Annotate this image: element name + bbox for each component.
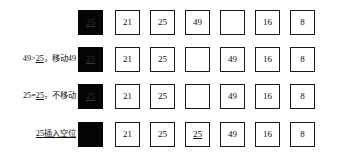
key-cell: 25: [78, 10, 103, 35]
label-segment: ，不移动: [44, 91, 76, 100]
step-label: 49>25，移动49: [0, 54, 78, 63]
array-cell: 49: [185, 10, 210, 35]
array-cell: 25: [185, 122, 210, 147]
cell-value: 25: [86, 18, 95, 27]
insertion-sort-diagram: 2521254916849>25，移动492521254916825=25，不移…: [0, 0, 342, 157]
cell-value: 16: [263, 92, 272, 101]
cell-value: 49: [228, 130, 237, 139]
cell-value: 25: [86, 92, 95, 101]
cell-value: 8: [300, 55, 305, 64]
label-segment: ，移动49: [44, 54, 76, 63]
step-row: 25=25，不移动25212549168: [0, 81, 342, 111]
step-label: 25=25，不移动: [0, 91, 78, 100]
key-cell: 25: [78, 47, 103, 72]
cell-value: 21: [123, 55, 132, 64]
cell-value: 49: [193, 18, 202, 27]
array-cell: 25: [150, 122, 175, 147]
array-cell: 21: [115, 84, 140, 109]
key-cell: [78, 122, 103, 147]
label-segment: 25: [36, 129, 44, 138]
array-cell: 16: [255, 122, 280, 147]
cell-value: 49: [228, 55, 237, 64]
cell-strip: 25212549168: [78, 7, 325, 37]
cell-value: 16: [263, 55, 272, 64]
cell-strip: 25212549168: [78, 44, 325, 74]
array-cell: 21: [115, 47, 140, 72]
cell-value: 21: [123, 130, 132, 139]
cell-value: 21: [123, 92, 132, 101]
cell-strip: 25212549168: [78, 81, 325, 111]
label-segment: 25: [36, 91, 44, 100]
label-segment: 25: [36, 54, 44, 63]
array-cell: 16: [255, 10, 280, 35]
cell-value: 25: [86, 55, 95, 64]
array-cell: 25: [150, 47, 175, 72]
label-segment: 25=: [23, 91, 36, 100]
cell-value: 25: [158, 18, 167, 27]
step-row: 49>25，移动4925212549168: [0, 44, 342, 74]
step-label: 25插入空位: [0, 129, 78, 138]
array-cell: 8: [290, 47, 315, 72]
array-cell: 16: [255, 47, 280, 72]
array-cell: 49: [220, 122, 245, 147]
array-cell: 8: [290, 10, 315, 35]
array-cell: 25: [150, 84, 175, 109]
array-cell: 49: [220, 84, 245, 109]
cell-value: 25: [158, 92, 167, 101]
cell-value: 16: [263, 130, 272, 139]
cell-value: 25: [158, 130, 167, 139]
step-row: 25插入空位21252549168: [0, 119, 342, 149]
cell-value: 25: [193, 130, 202, 139]
label-segment: 49>: [23, 54, 36, 63]
cell-value: 8: [300, 92, 305, 101]
array-cell: 8: [290, 84, 315, 109]
array-cell: 8: [290, 122, 315, 147]
cell-value: 25: [158, 55, 167, 64]
cell-value: 49: [228, 92, 237, 101]
array-cell: 25: [150, 10, 175, 35]
label-segment: 插入空位: [44, 129, 76, 138]
array-cell: 21: [115, 122, 140, 147]
array-cell: [185, 47, 210, 72]
array-cell: 21: [115, 10, 140, 35]
cell-value: 8: [300, 130, 305, 139]
cell-value: 21: [123, 18, 132, 27]
array-cell: [185, 84, 210, 109]
cell-value: 8: [300, 18, 305, 27]
array-cell: 16: [255, 84, 280, 109]
array-cell: [220, 10, 245, 35]
cell-value: 16: [263, 18, 272, 27]
array-cell: 49: [220, 47, 245, 72]
cell-strip: 21252549168: [78, 119, 325, 149]
key-cell: 25: [78, 84, 103, 109]
step-row: 25212549168: [0, 7, 342, 37]
